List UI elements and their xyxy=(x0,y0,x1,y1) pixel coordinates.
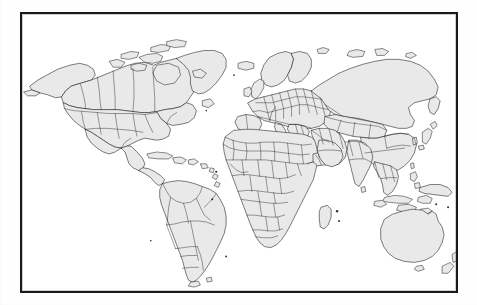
world-map-graphic xyxy=(22,14,456,291)
scanned-page xyxy=(0,0,477,305)
landmass-north-america xyxy=(24,40,226,171)
map-border-frame xyxy=(20,12,458,293)
